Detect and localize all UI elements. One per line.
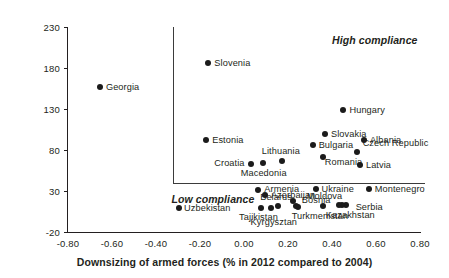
data-point[interactable] — [97, 84, 103, 90]
data-point-label: Lithuania — [262, 146, 300, 156]
data-point[interactable] — [340, 107, 346, 113]
data-point[interactable] — [268, 205, 274, 211]
data-point[interactable] — [205, 60, 211, 66]
x-tick-label: 0.20 — [266, 238, 310, 249]
x-tick-label: -0.60 — [90, 238, 134, 249]
x-tick-label: -0.20 — [178, 238, 222, 249]
y-tick-label: -20 — [26, 227, 60, 238]
data-point-label: Montenegro — [375, 184, 425, 194]
data-point[interactable] — [336, 202, 342, 208]
data-point[interactable] — [258, 205, 264, 211]
data-point-label: Latvia — [366, 160, 391, 170]
y-tick-mark — [64, 68, 67, 69]
data-point-label: Belarus — [260, 192, 292, 202]
data-point-label: Kazakhstan — [326, 210, 375, 220]
data-point[interactable] — [176, 205, 182, 211]
data-point-label: Hungary — [349, 105, 384, 115]
data-point[interactable] — [366, 186, 372, 192]
y-tick-mark — [64, 109, 67, 110]
y-tick-label: 230 — [26, 22, 60, 33]
data-point-label: Moldova — [307, 191, 342, 201]
data-point-label: Uzbekistan — [184, 203, 230, 213]
data-point[interactable] — [357, 162, 363, 168]
x-axis-line — [67, 232, 421, 233]
data-point[interactable] — [260, 160, 266, 166]
data-point-label: Czech Republic — [363, 138, 429, 148]
y-tick-mark — [64, 232, 67, 233]
y-tick-mark — [64, 150, 67, 151]
data-point[interactable] — [320, 203, 326, 209]
data-point[interactable] — [203, 137, 209, 143]
data-point-label: Kyrgysztan — [251, 217, 297, 227]
data-point-label: Croatia — [214, 158, 244, 168]
data-point-label: Macedonia — [241, 168, 287, 178]
data-point[interactable] — [248, 161, 254, 167]
data-point[interactable] — [279, 158, 285, 164]
y-tick-mark — [64, 191, 67, 192]
data-point-label: Georgia — [106, 82, 139, 92]
y-axis-line — [67, 27, 68, 233]
x-tick-label: -0.80 — [46, 238, 90, 249]
x-tick-label: -0.40 — [134, 238, 178, 249]
scatter-chart: 2301801308030-20 -0.80-0.60-0.40-0.200.0… — [0, 0, 449, 278]
vertical-divider-line — [173, 27, 174, 183]
annotation-high-compliance: High compliance — [332, 34, 418, 46]
data-point-label: Bulgaria — [319, 140, 354, 150]
data-point[interactable] — [275, 203, 281, 209]
data-point[interactable] — [322, 131, 328, 137]
y-tick-label: 130 — [26, 104, 60, 115]
data-point[interactable] — [310, 142, 316, 148]
data-point[interactable] — [354, 149, 360, 155]
x-tick-label: 0.40 — [310, 238, 354, 249]
y-tick-label: 80 — [26, 145, 60, 156]
x-tick-label: 0.60 — [354, 238, 398, 249]
y-tick-label: 30 — [26, 186, 60, 197]
y-tick-mark — [64, 27, 67, 28]
data-point-label: Slovenia — [214, 58, 250, 68]
y-tick-label: 180 — [26, 63, 60, 74]
x-tick-label: 0.00 — [222, 238, 266, 249]
x-tick-label: 0.80 — [398, 238, 442, 249]
x-axis-title: Downsizing of armed forces (% in 2012 co… — [0, 256, 449, 268]
data-point-label: Estonia — [212, 135, 243, 145]
